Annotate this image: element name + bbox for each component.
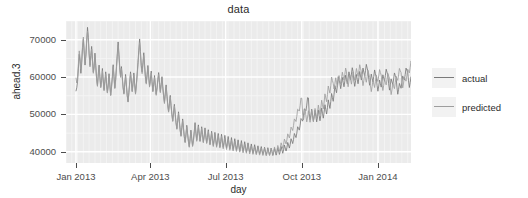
y-tick-label: 40000 xyxy=(8,146,56,157)
legend-key-swatch xyxy=(432,97,456,117)
x-tick-label: Jan 2013 xyxy=(41,171,111,182)
plot-panel-svg xyxy=(66,21,411,163)
chart-title: data xyxy=(66,3,411,15)
y-tick-mark xyxy=(61,114,66,115)
legend-label: predicted xyxy=(462,102,501,113)
legend-item-actual[interactable]: actual xyxy=(432,68,501,88)
x-axis-title: day xyxy=(66,184,411,195)
series-line-predicted xyxy=(76,31,411,156)
chart-legend: actualpredicted xyxy=(432,68,501,117)
x-tick-label: Jul 2013 xyxy=(191,171,261,182)
y-tick-mark xyxy=(61,40,66,41)
legend-key-swatch xyxy=(432,68,456,88)
x-tick-mark xyxy=(76,163,77,168)
x-tick-label: Jan 2014 xyxy=(343,171,413,182)
plot-panel xyxy=(66,21,411,163)
x-tick-mark xyxy=(226,163,227,168)
legend-key-line xyxy=(434,106,454,107)
x-tick-mark xyxy=(378,163,379,168)
x-tick-label: Apr 2013 xyxy=(115,171,185,182)
y-tick-mark xyxy=(61,77,66,78)
y-tick-mark xyxy=(61,152,66,153)
y-axis-title: ahead.3 xyxy=(11,42,22,122)
x-tick-mark xyxy=(302,163,303,168)
x-tick-mark xyxy=(150,163,151,168)
series-line-actual xyxy=(76,27,411,155)
chart-plot: data 40000500006000070000 ahead.3 day ac… xyxy=(0,0,528,198)
legend-key-line xyxy=(434,77,454,78)
legend-item-predicted[interactable]: predicted xyxy=(432,97,501,117)
legend-label: actual xyxy=(462,73,487,84)
series-lines xyxy=(76,27,411,156)
x-tick-label: Oct 2013 xyxy=(267,171,337,182)
